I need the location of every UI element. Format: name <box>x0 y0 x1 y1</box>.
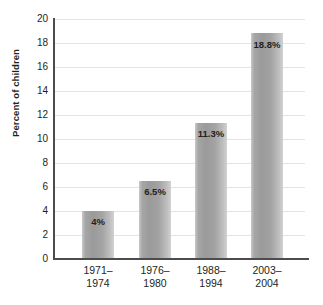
bar-chart-figure: Percent of children 20 18 16 14 12 10 8 … <box>0 0 323 305</box>
bar-value-label: 11.3% <box>189 129 233 139</box>
bar-value-label: 4% <box>76 217 120 227</box>
x-tick-label-line1: 2003– <box>232 264 302 277</box>
x-axis-line <box>53 258 309 260</box>
y-tick-label: 8 <box>4 158 48 168</box>
bar-value-label: 6.5% <box>133 187 177 197</box>
x-tick-label-line2: 2004 <box>232 277 302 290</box>
y-tick-label: 4 <box>4 206 48 216</box>
y-axis-tick-labels: 20 18 16 14 12 10 8 6 4 2 0 <box>0 19 48 259</box>
y-tick-label: 2 <box>4 230 48 240</box>
bar[interactable] <box>251 33 283 259</box>
y-tick-label: 18 <box>4 38 48 48</box>
y-tick-label: 12 <box>4 110 48 120</box>
y-tick-label: 0 <box>4 254 48 264</box>
gridline <box>54 19 305 20</box>
y-tick-label: 20 <box>4 14 48 24</box>
bar-value-label: 18.8% <box>245 40 289 50</box>
y-axis-line <box>53 18 55 260</box>
y-tick-label: 16 <box>4 62 48 72</box>
x-axis-tick-labels: 1971– 1974 1976– 1980 1988– 1994 2003– 2… <box>54 264 305 302</box>
plot-area: 4% 6.5% 11.3% 18.8% <box>54 19 305 259</box>
x-tick-label: 2003– 2004 <box>232 264 302 290</box>
y-tick-label: 6 <box>4 182 48 192</box>
y-tick-label: 10 <box>4 134 48 144</box>
bar[interactable] <box>195 123 227 259</box>
y-tick-label: 14 <box>4 86 48 96</box>
